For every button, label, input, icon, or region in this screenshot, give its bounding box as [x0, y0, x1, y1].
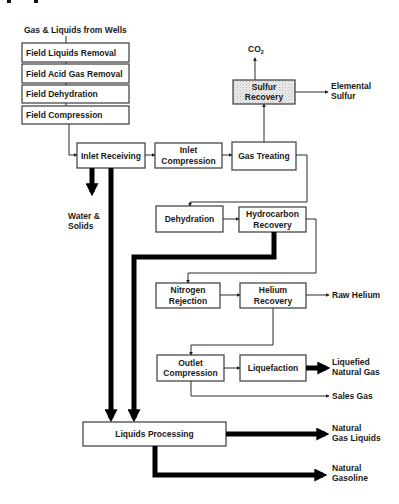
source-label: Gas & Liquids from Wells: [24, 25, 127, 35]
sulfur-recovery-box: Sulfur Recovery: [233, 80, 295, 104]
node-label: Dehydration: [165, 214, 215, 224]
nitrogen-rejection-box: Nitrogen Rejection: [156, 283, 220, 308]
node-label: Helium: [259, 285, 288, 295]
field-step-label: Field Liquids Removal: [26, 48, 116, 58]
inlet-receiving-box: Inlet Receiving: [77, 143, 145, 168]
output-water-solids: Solids: [68, 221, 94, 231]
node-label: Gas Treating: [238, 151, 290, 161]
field-dehydration-box: Field Dehydration: [22, 85, 129, 103]
hydrocarbon-recovery-box: Hydrocarbon Recovery: [239, 207, 306, 232]
output-sales-gas: Sales Gas: [332, 391, 373, 401]
output-ngl: Natural: [332, 423, 361, 433]
output-elemental-sulfur: Elemental: [331, 81, 371, 91]
node-label: Recovery: [254, 296, 293, 306]
node-label: Compression: [161, 156, 215, 166]
output-elemental-sulfur: Sulfur: [331, 91, 356, 101]
outlet-compression-box: Outlet Compression: [157, 355, 224, 381]
output-ngl: Gas Liquids: [332, 433, 381, 443]
node-label: Liquefaction: [248, 363, 299, 373]
node-label: Inlet: [180, 145, 198, 155]
helium-recovery-box: Helium Recovery: [240, 283, 306, 308]
gas-treating-box: Gas Treating: [232, 142, 296, 170]
process-flow-diagram: Gas & Liquids from Wells Field Liquids R…: [0, 0, 399, 504]
flow-arrow: [191, 308, 273, 355]
flow-arrow: [191, 381, 329, 396]
node-label: Compression: [163, 368, 217, 378]
thick-flow-arrow: [155, 446, 323, 475]
liquefaction-box: Liquefaction: [240, 355, 306, 381]
inlet-compression-box: Inlet Compression: [155, 143, 222, 168]
node-label: Inlet Receiving: [81, 151, 141, 161]
node-label: Hydrocarbon: [246, 209, 299, 219]
output-lng: Liquefied: [332, 357, 370, 367]
crop-mark: [7, 0, 11, 3]
node-label: Recovery: [245, 92, 284, 102]
output-raw-helium: Raw Helium: [332, 290, 381, 300]
node-label: Sulfur: [252, 82, 277, 92]
node-label: Rejection: [169, 296, 207, 306]
dehydration-box: Dehydration: [156, 206, 223, 232]
liquids-processing-box: Liquids Processing: [83, 422, 226, 446]
field-step-label: Field Acid Gas Removal: [26, 69, 123, 79]
crop-mark: [34, 0, 38, 3]
node-label: Outlet: [178, 358, 203, 368]
node-label: Liquids Processing: [115, 429, 193, 439]
flow-arrow: [69, 124, 77, 155]
field-step-label: Field Dehydration: [26, 89, 98, 99]
field-compression-box: Field Compression: [22, 106, 129, 124]
field-acid-gas-removal-box: Field Acid Gas Removal: [22, 64, 129, 83]
output-natural-gasoline: Gasoline: [332, 473, 368, 483]
output-natural-gasoline: Natural: [332, 463, 361, 473]
node-label: Recovery: [253, 220, 292, 230]
field-step-label: Field Compression: [26, 110, 103, 120]
output-lng: Natural Gas: [332, 367, 380, 377]
field-liquids-removal-box: Field Liquids Removal: [22, 43, 129, 62]
output-water-solids: Water &: [68, 211, 100, 221]
output-co2: CO2: [248, 44, 264, 55]
thick-flow-arrow: [134, 232, 274, 418]
node-label: Nitrogen: [171, 285, 206, 295]
